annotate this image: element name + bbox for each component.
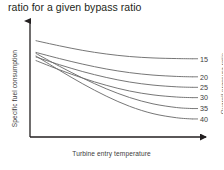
series-value-label: 15 [200, 55, 208, 64]
series-value-label: 30 [200, 93, 208, 102]
series-value-label: 20 [200, 73, 208, 82]
right-axis-label: Overall pressure ratio [219, 34, 224, 134]
series-value-label: 25 [200, 83, 208, 92]
series-value-label: 40 [200, 115, 208, 124]
series-line [36, 53, 192, 108]
series-group [36, 41, 198, 119]
chart-canvas [0, 0, 223, 170]
series-line [36, 41, 192, 59]
y-axis-label: Specific fuel consumption [11, 34, 18, 144]
series-line [36, 57, 192, 87]
series-value-label: 35 [200, 104, 208, 113]
x-axis-label: Turbine entry temperature [0, 150, 223, 157]
figure: ratio for a given bypass ratio Specific … [0, 0, 223, 170]
